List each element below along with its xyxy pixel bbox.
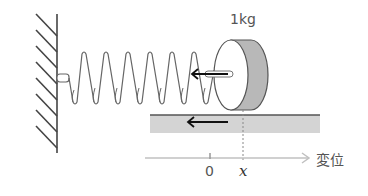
disk-mass	[205, 40, 268, 110]
floor	[150, 115, 320, 133]
origin-label: 0	[205, 163, 214, 179]
axis-title: 変位	[316, 149, 344, 169]
spring	[57, 52, 214, 104]
spring-mass-diagram	[0, 0, 368, 196]
mass-label: 1kg	[230, 11, 256, 27]
displacement-axis	[145, 153, 309, 163]
position-label: x	[239, 162, 247, 180]
wall	[36, 14, 57, 153]
